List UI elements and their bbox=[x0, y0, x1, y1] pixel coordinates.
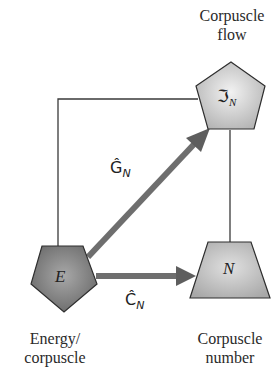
number-symbol: N bbox=[223, 259, 234, 278]
g-operator: Ĝ bbox=[110, 158, 122, 177]
arrow-g-shaft bbox=[88, 141, 197, 257]
g-subscript: N bbox=[122, 167, 130, 180]
edge-c-operator: ĈN bbox=[125, 290, 144, 312]
node-flow-symbol: ℑN bbox=[217, 86, 236, 108]
diagram-canvas bbox=[0, 0, 277, 379]
energy-label-line2: corpuscle bbox=[0, 348, 110, 367]
flow-label-line1: Corpuscle bbox=[182, 6, 277, 25]
energy-symbol: E bbox=[55, 267, 65, 286]
number-label-line1: Corpuscle bbox=[180, 329, 277, 348]
flow-symbol: ℑ bbox=[217, 87, 229, 106]
node-number-symbol: N bbox=[223, 259, 234, 279]
arrow-c-head bbox=[176, 266, 196, 286]
c-subscript: N bbox=[136, 299, 144, 312]
node-number-label: Corpuscle number bbox=[180, 329, 277, 367]
c-operator: Ĉ bbox=[125, 290, 136, 309]
node-energy-label: Energy/ corpuscle bbox=[0, 329, 110, 367]
flow-subscript: N bbox=[229, 96, 236, 108]
node-flow-label: Corpuscle flow bbox=[182, 6, 277, 44]
edge-g-operator: ĜN bbox=[110, 158, 131, 180]
node-energy-symbol: E bbox=[55, 267, 65, 287]
number-label-line2: number bbox=[180, 348, 277, 367]
energy-label-line1: Energy/ bbox=[0, 329, 110, 348]
flow-label-line2: flow bbox=[182, 25, 277, 44]
